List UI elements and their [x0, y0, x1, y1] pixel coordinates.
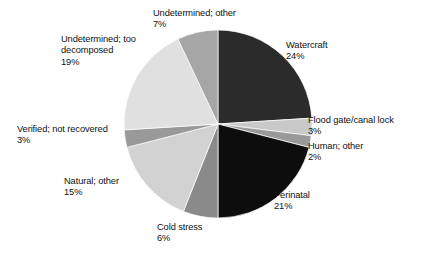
- pie-label-undetermined-too-decomposed: Undetermined; too decomposed 19%: [61, 34, 136, 68]
- pie-label-natural-other-name: Natural; other: [64, 176, 119, 187]
- pie-label-cold-stress-name: Cold stress: [157, 222, 202, 233]
- pie-label-flood-gate-canal-lock-name: Flood gate/canal lock: [308, 115, 394, 126]
- pie-label-human-other-name: Human; other: [308, 141, 363, 152]
- pie-label-human-other-percent: 2%: [308, 152, 363, 163]
- pie-label-cold-stress-percent: 6%: [157, 233, 202, 244]
- pie-label-perinatal-name: Perinatal: [274, 190, 310, 201]
- pie-label-undetermined-other-name: Undetermined; other: [153, 8, 236, 19]
- pie-label-verified-not-recovered-percent: 3%: [17, 135, 108, 146]
- pie-label-perinatal-percent: 21%: [274, 201, 310, 212]
- pie-label-natural-other: Natural; other 15%: [64, 176, 119, 199]
- pie-label-cold-stress: Cold stress 6%: [157, 222, 202, 245]
- pie-label-verified-not-recovered-name: Verified; not recovered: [17, 124, 108, 135]
- pie-label-human-other: Human; other 2%: [308, 141, 363, 164]
- pie-label-watercraft: Watercraft 24%: [286, 40, 328, 63]
- pie-label-perinatal: Perinatal 21%: [274, 190, 310, 213]
- pie-label-verified-not-recovered: Verified; not recovered 3%: [17, 124, 108, 147]
- pie-label-flood-gate-canal-lock: Flood gate/canal lock 3%: [308, 115, 394, 138]
- pie-label-undetermined-too-decomposed-name: Undetermined; too decomposed: [61, 34, 136, 57]
- pie-label-flood-gate-canal-lock-percent: 3%: [308, 126, 394, 137]
- pie-label-watercraft-percent: 24%: [286, 51, 328, 62]
- pie-chart: Watercraft 24% Flood gate/canal lock 3% …: [0, 0, 421, 256]
- pie-label-natural-other-percent: 15%: [64, 187, 119, 198]
- pie-label-watercraft-name: Watercraft: [286, 40, 328, 51]
- pie-label-undetermined-too-decomposed-percent: 19%: [61, 57, 136, 68]
- pie-label-undetermined-other-percent: 7%: [153, 19, 236, 30]
- pie-label-undetermined-other: Undetermined; other 7%: [153, 8, 236, 31]
